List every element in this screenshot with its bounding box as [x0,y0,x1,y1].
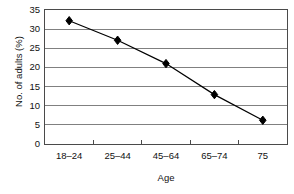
y-axis-tick-label: 30 [18,24,40,34]
x-axis-tick-label: 18–24 [56,150,82,161]
y-axis-tick-label: 25 [18,44,40,54]
y-axis-tick-label: 20 [18,63,40,73]
plot-svg [45,10,287,144]
x-axis-tick-label: 75 [258,150,269,161]
x-axis-tick-label: 25–44 [104,150,130,161]
y-axis-tick-labels: 05101520253035 [18,9,40,145]
data-point-marker [163,59,170,67]
plot-area [44,9,288,145]
y-axis-tick-label: 35 [18,5,40,15]
data-point-marker [211,90,218,98]
x-axis-title: Age [44,172,288,183]
y-axis-tick-label: 5 [18,120,40,130]
x-axis-tick-label: 45–64 [153,150,179,161]
data-point-marker [260,116,267,124]
x-axis-tick-labels: 18–2425–4445–6465–7475 [44,150,288,164]
y-axis-tick-label: 10 [18,101,40,111]
line-chart: No. of adults (%) 05101520253035 18–2425… [0,0,294,194]
x-axis-tick-label: 65–74 [201,150,227,161]
data-point-marker [66,17,73,25]
y-axis-tick-label: 15 [18,82,40,92]
y-axis-tick-label: 0 [18,139,40,149]
data-point-marker [114,36,121,44]
